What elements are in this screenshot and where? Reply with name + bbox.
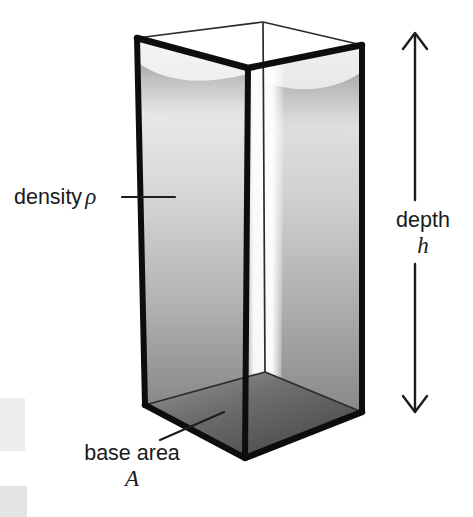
label-density: densityρ xyxy=(14,184,96,210)
label-base-area-symbol: A xyxy=(62,466,202,492)
hidden-edge-top-back-right xyxy=(263,22,362,45)
label-density-text: density xyxy=(14,185,82,209)
physics-figure-column-of-fluid: densityρ depth h base area A xyxy=(0,0,473,517)
label-depth-text: depth xyxy=(396,208,450,232)
hidden-edge-top-back-left xyxy=(137,22,263,38)
label-depth: depth h xyxy=(385,208,461,259)
label-base-area: base area A xyxy=(62,441,202,492)
label-depth-symbol: h xyxy=(385,233,461,259)
label-base-area-text: base area xyxy=(84,441,180,465)
edge-vertical-front xyxy=(245,68,248,458)
label-density-symbol: ρ xyxy=(82,184,96,209)
